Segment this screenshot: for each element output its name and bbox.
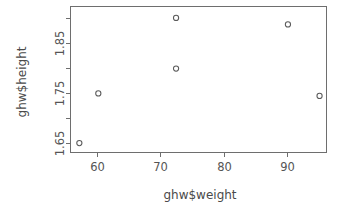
- plot-canvas: 1.85 1.75 1.65 60 70 80 90 ghw$height gh…: [0, 0, 344, 214]
- x-axis-tick-labels: 60 70 80 90: [90, 160, 295, 174]
- data-point: [317, 93, 322, 98]
- x-tick-label-90: 90: [280, 160, 295, 174]
- data-point: [77, 140, 82, 145]
- scatter-plot-figure: 1.85 1.75 1.65 60 70 80 90 ghw$height gh…: [0, 0, 344, 214]
- y-tick-label-1.75: 1.75: [53, 81, 67, 107]
- data-point-series: [77, 15, 322, 145]
- y-axis-title: ghw$height: [15, 46, 29, 117]
- x-tick-label-70: 70: [153, 160, 168, 174]
- data-point: [285, 22, 290, 27]
- y-tick-label-1.65: 1.65: [53, 131, 67, 157]
- x-tick-label-60: 60: [90, 160, 105, 174]
- y-tick-label-1.85: 1.85: [53, 31, 67, 57]
- x-tick-label-80: 80: [217, 160, 232, 174]
- y-axis-tick-labels: 1.85 1.75 1.65: [53, 31, 67, 157]
- data-point: [173, 15, 178, 20]
- x-axis-ticks: [98, 153, 288, 158]
- data-point: [96, 91, 101, 96]
- data-point: [173, 66, 178, 71]
- plot-box-frame: [71, 7, 327, 153]
- y-axis-ticks: [66, 19, 71, 144]
- x-axis-title: ghw$weight: [163, 188, 236, 202]
